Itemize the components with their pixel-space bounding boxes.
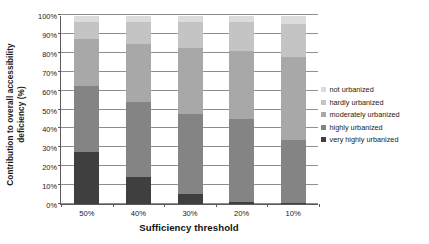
plot-area: 0%10%20%30%40%50%60%70%80%90%100%50%40%3… [60,16,318,205]
y-tick-label-90: 90% [42,30,57,39]
legend-swatch [321,100,326,105]
y-tick-mark-90 [58,33,61,34]
x-tick-mark [61,204,62,207]
legend-swatch [321,112,326,117]
legend-item[interactable]: moderately urbanized [321,109,400,120]
legend-label: moderately urbanized [330,110,400,119]
y-axis-title-line-1: Contribution to overall accessibility [6,15,17,215]
bar-segment[interactable] [281,57,306,140]
bar-segment[interactable] [229,51,254,120]
legend-label: not urbanized [330,85,374,94]
x-tick-label-20: 20% [234,209,249,218]
bar-segment[interactable] [229,202,254,204]
legend-label: hardly urbanized [330,98,384,107]
bar-segment[interactable] [126,102,151,176]
bar-group[interactable] [229,16,254,204]
bar-segment[interactable] [74,22,99,39]
x-tick-mark [267,204,268,207]
y-tick-label-40: 40% [42,125,57,134]
chart-figure: Contribution to overall accessibility de… [0,0,429,244]
y-tick-label-60: 60% [42,87,57,96]
stacked-bar[interactable] [229,16,254,204]
x-tick-label-30: 30% [182,209,197,218]
bar-segment[interactable] [178,48,203,114]
legend-label: highly urbanized [330,123,383,132]
bar-group[interactable] [74,16,99,204]
y-tick-mark-40 [58,127,61,128]
x-tick-mark [164,204,165,207]
legend-item[interactable]: not urbanized [321,84,400,95]
y-tick-mark-100 [58,14,61,15]
legend-item[interactable]: hardly urbanized [321,97,400,108]
y-tick-mark-30 [58,146,61,147]
y-tick-mark-70 [58,71,61,72]
y-tick-label-50: 50% [42,106,57,115]
bar-segment[interactable] [281,140,306,203]
bar-segment[interactable] [74,86,99,152]
bar-segment[interactable] [74,39,99,87]
y-tick-label-0: 0% [46,201,57,210]
x-tick-label-10: 10% [286,209,301,218]
bar-group[interactable] [178,16,203,204]
legend-item[interactable]: highly urbanized [321,122,400,133]
bar-segment[interactable] [126,44,151,102]
legend-swatch [321,87,326,92]
x-axis-title: Sufficiency threshold [60,222,318,233]
x-tick-label-50: 50% [79,209,94,218]
chart-legend: not urbanizedhardly urbanizedmoderately … [321,84,400,145]
y-axis-title: Contribution to overall accessibility de… [6,15,27,215]
bar-segment[interactable] [126,177,151,204]
x-tick-mark [319,204,320,207]
legend-label: very highly urbanized [330,135,399,144]
legend-swatch [321,137,326,142]
bar-segment[interactable] [126,22,151,45]
bar-segment[interactable] [178,194,203,204]
bar-segment[interactable] [281,24,306,58]
y-tick-label-70: 70% [42,68,57,77]
bar-segment[interactable] [178,114,203,194]
bar-segment[interactable] [229,119,254,202]
stacked-bar[interactable] [74,16,99,204]
x-tick-mark [216,204,217,207]
x-tick-mark [113,204,114,207]
bar-group[interactable] [126,16,151,204]
bar-segment[interactable] [281,16,306,24]
legend-swatch [321,125,326,130]
y-tick-mark-10 [58,184,61,185]
stacked-bar[interactable] [178,16,203,204]
y-tick-mark-50 [58,109,61,110]
gridline-100 [61,14,318,15]
bar-segment[interactable] [281,203,306,204]
legend-item[interactable]: very highly urbanized [321,134,400,145]
stacked-bar[interactable] [126,16,151,204]
y-axis-title-line-2: deficiency (%) [16,15,27,215]
y-tick-label-100: 100% [38,12,57,21]
y-tick-label-80: 80% [42,49,57,58]
x-tick-label-40: 40% [131,209,146,218]
bar-group[interactable] [281,16,306,204]
y-tick-label-10: 10% [42,182,57,191]
y-tick-label-30: 30% [42,144,57,153]
bar-segment[interactable] [74,152,99,204]
bar-segment[interactable] [178,22,203,48]
y-tick-mark-80 [58,52,61,53]
stacked-bar[interactable] [281,16,306,204]
bar-segment[interactable] [229,22,254,51]
y-tick-mark-20 [58,165,61,166]
y-tick-label-20: 20% [42,163,57,172]
y-tick-mark-60 [58,90,61,91]
